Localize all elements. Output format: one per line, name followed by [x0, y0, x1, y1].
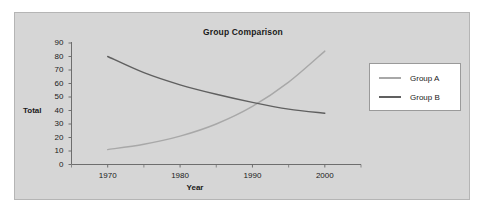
y-tick-label: 80 — [44, 53, 64, 61]
legend-label-group-b: Group B — [410, 93, 440, 102]
y-tick-label: 50 — [44, 93, 64, 101]
legend-item-group-b: Group B — [370, 91, 462, 103]
y-tick-label: 60 — [44, 80, 64, 88]
y-tick-label: 10 — [44, 147, 64, 155]
chart-series-group — [108, 51, 325, 150]
chart-panel: Group Comparison 0102030405060708090 197… — [14, 12, 470, 200]
x-axis-title: Year — [15, 183, 375, 192]
chart-legend: Group A Group B — [369, 63, 461, 111]
legend-label-group-a: Group A — [410, 74, 439, 83]
series-line-group-a — [108, 51, 325, 150]
x-tick-label: 1970 — [88, 172, 128, 180]
x-tick-label: 1990 — [232, 172, 272, 180]
x-tick-label: 1980 — [160, 172, 200, 180]
y-tick-label: 40 — [44, 107, 64, 115]
series-line-group-b — [108, 57, 325, 114]
legend-swatch-group-a — [379, 77, 401, 79]
x-tick-label: 2000 — [305, 172, 345, 180]
y-tick-label: 0 — [44, 161, 64, 169]
legend-item-group-a: Group A — [370, 72, 462, 84]
y-tick-label: 90 — [44, 39, 64, 47]
legend-swatch-group-b — [379, 96, 401, 98]
y-tick-label: 30 — [44, 120, 64, 128]
y-tick-label: 70 — [44, 66, 64, 74]
y-axis-title: Total — [23, 106, 42, 115]
y-tick-label: 20 — [44, 134, 64, 142]
